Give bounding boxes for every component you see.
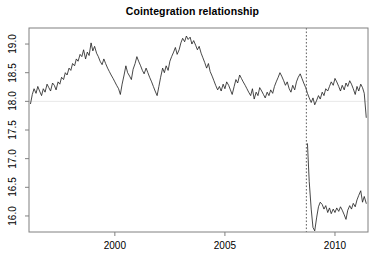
- y-tick-label: 17.5: [0, 122, 26, 138]
- y-tick-label-text: 19.0: [5, 31, 21, 57]
- x-tick-label: 2010: [305, 240, 365, 251]
- y-tick-label: 16.0: [0, 208, 26, 224]
- y-tick-label: 17.0: [0, 151, 26, 167]
- y-tick-label-text: 18.0: [5, 88, 21, 114]
- y-tick-label-text: 17.0: [5, 146, 21, 172]
- x-tick-label: 2000: [85, 240, 145, 251]
- y-tick-label: 16.5: [0, 179, 26, 195]
- x-tick-label: 2005: [195, 240, 255, 251]
- series-line-pre-break: [31, 36, 367, 117]
- y-tick-label: 19.0: [0, 36, 26, 52]
- plot-canvas: [0, 0, 385, 267]
- series-line-post-break: [307, 144, 366, 231]
- chart-container: Cointegration relationship 16.016.517.01…: [0, 0, 385, 267]
- y-tick-label-text: 17.5: [5, 117, 21, 143]
- y-tick-label-text: 18.5: [5, 60, 21, 86]
- y-tick-label: 18.5: [0, 65, 26, 81]
- y-tick-label-text: 16.5: [5, 174, 21, 200]
- y-tick-label-text: 16.0: [5, 203, 21, 229]
- plot-box-border: [29, 28, 368, 232]
- y-tick-label: 18.0: [0, 93, 26, 109]
- x-axis-tick-marks: [115, 232, 335, 236]
